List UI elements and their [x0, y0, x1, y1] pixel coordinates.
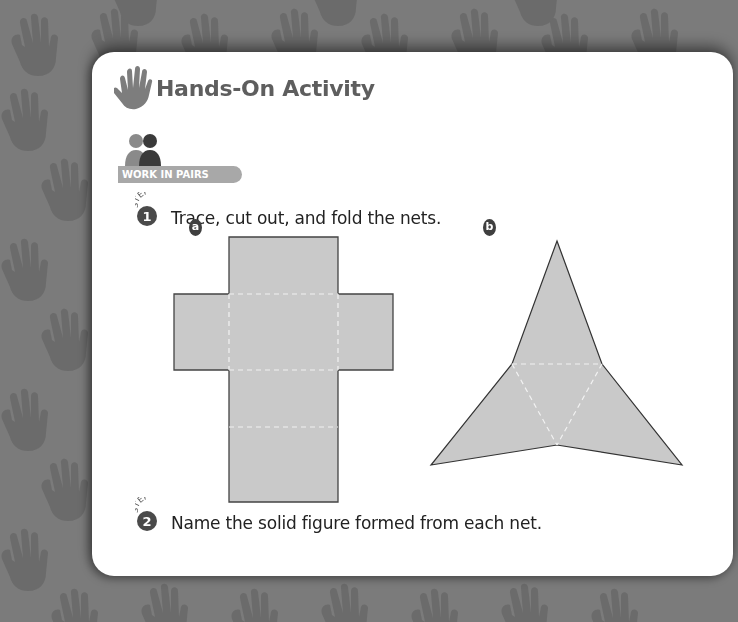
cube-net: [174, 237, 393, 502]
triangular-pyramid-net: [431, 241, 682, 465]
activity-card: Hands-On Activity WORK IN PAIRS STEP 1 T…: [92, 52, 733, 576]
nets-figure: [92, 52, 733, 576]
